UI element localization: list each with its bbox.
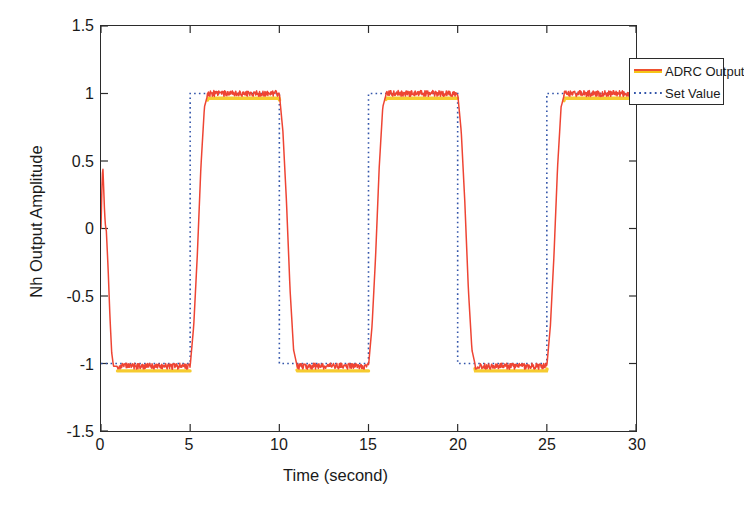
series-adrc-output: [101, 91, 636, 370]
legend-entry-adrc-output: ADRC Output: [630, 60, 723, 83]
series-adrc-output-shadow-run: [208, 98, 280, 100]
plot-area: ADRC Output Set Value: [100, 25, 637, 432]
x-tick-label: 10: [259, 437, 299, 453]
y-tick-label: 0: [6, 221, 94, 237]
y-tick-label: 0.5: [6, 154, 94, 170]
series-adrc-output-shadow-run: [386, 98, 458, 99]
y-axis-title: Nh Output Amplitude: [27, 102, 46, 342]
x-tick-label: 5: [169, 437, 209, 453]
y-tick-label: -1: [6, 357, 94, 373]
series-adrc-output-shadow-run: [564, 98, 636, 100]
y-tick-label: -0.5: [6, 289, 94, 305]
x-tick-label: 25: [527, 437, 567, 453]
plot-canvas: [101, 26, 636, 431]
y-tick-label: 1.5: [6, 18, 94, 34]
legend-box: ADRC Output Set Value: [629, 58, 724, 105]
legend-entry-set-value: Set Value: [630, 82, 723, 105]
y-axis-tick-labels: 1.5 1 0.5 0 -0.5 -1 -1.5: [0, 0, 94, 460]
solid-line-swatch-icon: [633, 60, 663, 83]
legend-label-adrc-output: ADRC Output: [665, 63, 744, 80]
x-tick-label: 30: [617, 437, 657, 453]
dotted-line-swatch-icon: [633, 82, 663, 105]
x-tick-label: 0: [80, 437, 120, 453]
x-axis-tick-labels: 0 5 10 15 20 25 30: [0, 437, 671, 461]
y-tick-label: 1: [6, 86, 94, 102]
x-tick-label: 15: [348, 437, 388, 453]
x-axis-title: Time (second): [0, 466, 671, 485]
x-tick-label: 20: [438, 437, 478, 453]
series-adrc-output-shadow-run: [297, 370, 368, 371]
legend-label-set-value: Set Value: [665, 85, 720, 102]
